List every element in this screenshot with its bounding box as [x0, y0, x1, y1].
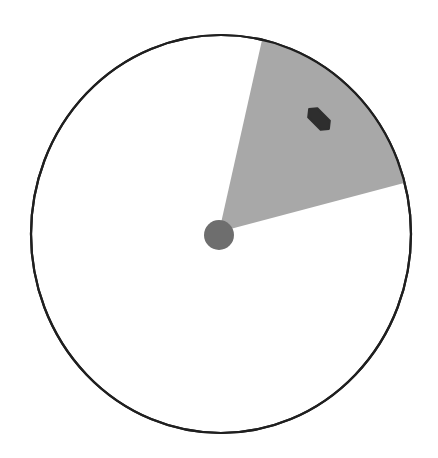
observer-dot [204, 220, 234, 250]
field-of-view-diagram [0, 0, 438, 458]
